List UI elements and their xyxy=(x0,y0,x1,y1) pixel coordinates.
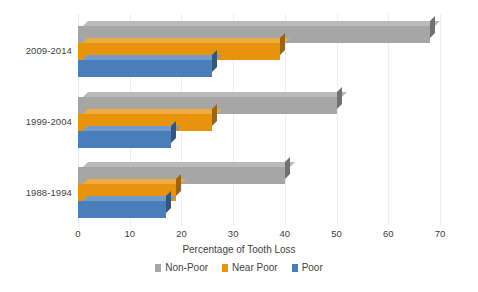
x-tick-label: 60 xyxy=(383,228,394,239)
legend-item[interactable]: Poor xyxy=(292,262,323,273)
legend-swatch-icon xyxy=(155,264,161,272)
bar-side-face xyxy=(430,16,435,38)
x-axis-title: Percentage of Tooth Loss xyxy=(0,244,478,255)
legend-swatch-icon xyxy=(292,264,298,272)
bar-side-face xyxy=(280,33,285,55)
bar-side-face xyxy=(176,174,181,196)
legend-item[interactable]: Non-Poor xyxy=(155,262,208,273)
category-label: 1988-1994 xyxy=(0,187,72,198)
bar-side-face xyxy=(212,104,217,126)
x-tick-label: 70 xyxy=(435,228,446,239)
bar-front-face xyxy=(78,201,166,218)
chart-legend: Non-PoorNear PoorPoor xyxy=(0,262,478,273)
tooth-loss-bar-chart: 2009-20141999-20041988-1994 010203040506… xyxy=(0,0,478,292)
bar-side-face xyxy=(171,121,176,143)
bar-poor xyxy=(78,201,166,218)
x-tick-label: 30 xyxy=(228,228,239,239)
bar-side-face xyxy=(212,50,217,72)
bar-group xyxy=(78,97,440,148)
legend-item[interactable]: Near Poor xyxy=(222,262,278,273)
bar-group xyxy=(78,167,440,218)
legend-swatch-icon xyxy=(222,264,228,272)
value-axis: 010203040506070 xyxy=(78,228,440,242)
bar-poor xyxy=(78,60,212,77)
legend-label: Poor xyxy=(302,262,323,273)
category-label: 1999-2004 xyxy=(0,116,72,127)
x-tick-label: 0 xyxy=(75,228,80,239)
bar-group xyxy=(78,26,440,77)
x-tick-label: 10 xyxy=(124,228,135,239)
bar-front-face xyxy=(78,131,171,148)
plot-area xyxy=(78,14,440,226)
bar-side-face xyxy=(285,157,290,179)
category-axis: 2009-20141999-20041988-1994 xyxy=(0,14,72,226)
gridline xyxy=(440,14,441,226)
legend-label: Near Poor xyxy=(232,262,278,273)
x-tick-label: 40 xyxy=(280,228,291,239)
bar-front-face xyxy=(78,60,212,77)
x-tick-label: 20 xyxy=(176,228,187,239)
bar-side-face xyxy=(337,87,342,109)
category-label: 2009-2014 xyxy=(0,45,72,56)
bar-side-face xyxy=(166,191,171,213)
legend-label: Non-Poor xyxy=(165,262,208,273)
bar-poor xyxy=(78,131,171,148)
x-tick-label: 50 xyxy=(331,228,342,239)
